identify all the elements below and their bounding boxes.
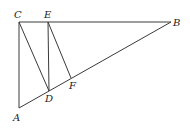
segments bbox=[19, 22, 171, 108]
label-A: A bbox=[12, 112, 20, 123]
label-F: F bbox=[68, 80, 77, 91]
label-E: E bbox=[43, 9, 52, 20]
label-B: B bbox=[172, 17, 180, 28]
point-labels: C E B F D A bbox=[12, 9, 180, 123]
geometry-diagram: C E B F D A bbox=[0, 0, 190, 129]
segment-EF bbox=[48, 22, 71, 78]
segment-ED bbox=[48, 22, 49, 91]
label-C: C bbox=[14, 9, 22, 20]
label-D: D bbox=[44, 93, 53, 104]
segment-CD bbox=[19, 22, 49, 91]
segment-AB bbox=[19, 22, 171, 108]
